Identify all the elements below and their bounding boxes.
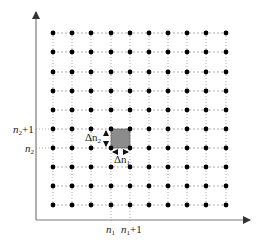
lattice-point: [128, 50, 133, 55]
lattice-point: [89, 108, 94, 113]
lattice-point: [185, 127, 190, 132]
lattice-point: [109, 165, 114, 170]
lattice-point: [147, 50, 152, 55]
lattice-point: [70, 89, 75, 94]
lattice-point: [51, 31, 56, 36]
lattice-point: [51, 50, 56, 55]
lattice-diagram: Δn2 Δn1 n2+1 n2 n1 n1+1: [0, 0, 264, 246]
delta-n1-label: Δn1: [114, 153, 131, 167]
lattice-point: [147, 70, 152, 75]
lattice-point: [185, 203, 190, 208]
lattice-point: [204, 31, 209, 36]
delta-n2-label: Δn2: [85, 131, 102, 145]
highlighted-cell: [111, 129, 130, 148]
lattice-point: [51, 203, 56, 208]
lattice-point: [128, 108, 133, 113]
lattice-point: [51, 89, 56, 94]
lattice-point: [70, 184, 75, 189]
lattice-point: [89, 70, 94, 75]
lattice-point: [166, 89, 171, 94]
lattice-point: [147, 165, 152, 170]
lattice-point: [109, 146, 114, 151]
lattice-point: [204, 127, 209, 132]
lattice-point: [89, 89, 94, 94]
lattice-point: [166, 70, 171, 75]
lattice-point: [128, 203, 133, 208]
lattice-point: [224, 70, 229, 75]
lattice-point: [51, 165, 56, 170]
lattice-point: [109, 31, 114, 36]
lattice-point: [204, 184, 209, 189]
lattice-point: [109, 203, 114, 208]
lattice-point: [89, 31, 94, 36]
lattice-point: [204, 165, 209, 170]
n2-plus-1-label: n2+1: [13, 123, 34, 137]
n1-label: n1: [106, 223, 116, 237]
lattice-point: [51, 127, 56, 132]
lattice-point: [185, 165, 190, 170]
lattice-point: [147, 127, 152, 132]
lattice-point: [166, 184, 171, 189]
lattice-point: [204, 203, 209, 208]
lattice-point: [147, 184, 152, 189]
lattice-point: [224, 108, 229, 113]
lattice-point: [166, 127, 171, 132]
lattice-point: [109, 184, 114, 189]
lattice-point: [166, 146, 171, 151]
lattice-point: [204, 146, 209, 151]
lattice-point: [70, 146, 75, 151]
lattice-point: [70, 203, 75, 208]
lattice-point: [109, 127, 114, 132]
lattice-point: [128, 89, 133, 94]
lattice-point: [147, 89, 152, 94]
lattice-point: [70, 31, 75, 36]
lattice-point: [70, 50, 75, 55]
lattice-point: [224, 127, 229, 132]
lattice-point: [51, 184, 56, 189]
lattice-point: [224, 31, 229, 36]
lattice-point: [185, 184, 190, 189]
lattice-point: [70, 108, 75, 113]
lattice-point: [128, 31, 133, 36]
lattice-point: [166, 165, 171, 170]
lattice-point: [185, 50, 190, 55]
lattice-point: [70, 70, 75, 75]
lattice-point: [109, 108, 114, 113]
lattice-point: [109, 70, 114, 75]
lattice-point: [128, 70, 133, 75]
lattice-point: [147, 31, 152, 36]
lattice-point: [147, 108, 152, 113]
lattice-point: [89, 184, 94, 189]
lattice-point: [224, 165, 229, 170]
lattice-point: [128, 146, 133, 151]
lattice-point: [89, 165, 94, 170]
lattice-point: [204, 108, 209, 113]
lattice-point: [147, 203, 152, 208]
n1-plus-1-label: n1+1: [121, 223, 142, 237]
lattice-point: [224, 203, 229, 208]
lattice-point: [51, 70, 56, 75]
lattice-point: [204, 50, 209, 55]
lattice-point: [109, 89, 114, 94]
lattice-points: [51, 31, 229, 208]
lattice-point: [185, 70, 190, 75]
lattice-point: [109, 50, 114, 55]
lattice-point: [166, 203, 171, 208]
lattice-point: [166, 108, 171, 113]
lattice-point: [204, 89, 209, 94]
lattice-point: [70, 127, 75, 132]
lattice-point: [185, 146, 190, 151]
lattice-point: [224, 146, 229, 151]
lattice-point: [166, 50, 171, 55]
lattice-point: [147, 146, 152, 151]
lattice-point: [51, 108, 56, 113]
lattice-point: [166, 31, 171, 36]
lattice-point: [89, 203, 94, 208]
lattice-point: [128, 127, 133, 132]
lattice-point: [70, 165, 75, 170]
lattice-point: [185, 108, 190, 113]
lattice-point: [204, 70, 209, 75]
lattice-point: [89, 50, 94, 55]
lattice-point: [185, 31, 190, 36]
n2-label: n2: [25, 142, 35, 156]
